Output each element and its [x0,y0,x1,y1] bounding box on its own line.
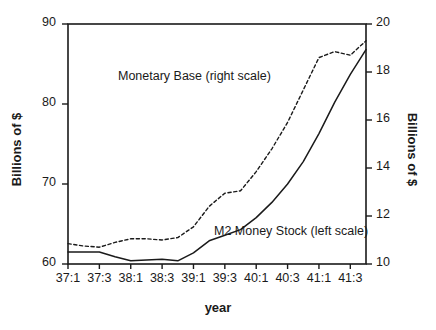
y-axis-left-tick-label: 80 [16,95,56,109]
x-axis-title: year [168,300,268,315]
y-axis-left-tick-label: 70 [16,175,56,189]
y-axis-right-tick-label: 16 [376,111,416,125]
y-axis-right-tick-label: 12 [376,207,416,221]
y-axis-right-tick-label: 14 [376,159,416,173]
y-axis-left-tick-label: 90 [16,15,56,29]
y-axis-right-title: Billions of $ [405,90,420,210]
series-annotation: Monetary Base (right scale) [118,69,271,83]
y-axis-right-tick-label: 10 [376,255,416,269]
x-axis-tick-label: 41:3 [327,271,373,285]
y-axis-left-tick-label: 60 [16,255,56,269]
y-axis-right-tick-label: 18 [376,63,416,77]
series-annotation: M2 Money Stock (left scale) [214,224,368,238]
chart-figure: Billions of $ Billions of $ year 6070809… [0,0,436,330]
y-axis-right-tick-label: 20 [376,15,416,29]
